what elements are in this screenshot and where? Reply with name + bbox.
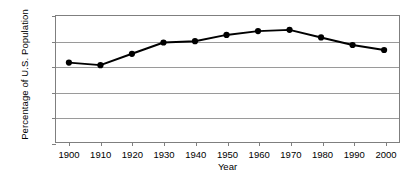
y-tick-mark	[52, 144, 56, 145]
data-point	[318, 34, 324, 40]
x-tick-mark	[323, 142, 324, 146]
y-axis-title: Percentage of U.S. Population	[19, 0, 30, 150]
x-tick-mark	[228, 142, 229, 146]
data-point	[255, 28, 261, 34]
x-axis-title: Year	[55, 161, 400, 172]
chart-figure: Percentage of U.S. Population 0%1%2%3%4%…	[0, 0, 420, 181]
x-tick-mark	[69, 142, 70, 146]
data-point	[192, 38, 198, 44]
x-tick-label: 2000	[366, 149, 406, 160]
data-point	[129, 51, 135, 57]
data-point	[349, 42, 355, 48]
x-tick-mark	[291, 142, 292, 146]
x-tick-mark	[386, 142, 387, 146]
data-point	[160, 39, 166, 45]
x-tick-mark	[164, 142, 165, 146]
x-tick-mark	[354, 142, 355, 146]
data-point	[223, 32, 229, 38]
data-point	[66, 60, 72, 66]
plot-area: 0%1%2%3%4%5% 190019101920193019401950196…	[55, 15, 400, 143]
x-tick-mark	[101, 142, 102, 146]
data-point	[97, 62, 103, 68]
x-tick-mark	[196, 142, 197, 146]
data-point	[381, 47, 387, 53]
data-series-layer	[56, 16, 399, 142]
x-tick-mark	[132, 142, 133, 146]
x-tick-mark	[259, 142, 260, 146]
series-markers	[66, 27, 387, 68]
data-point	[286, 27, 292, 33]
